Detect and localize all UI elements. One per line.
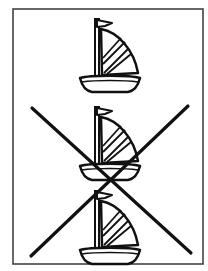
diagram-figure: Three sailboats stacked vertically in a … <box>0 0 208 271</box>
